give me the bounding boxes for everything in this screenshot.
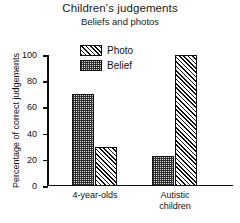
y-tick-label-40: 40 [27,129,37,138]
y-axis-line [47,55,49,186]
y-tick-20: 20 [43,160,48,162]
y-axis-label: Percentage of correct judgements [10,55,22,186]
x-category-label-2-line-2: children [130,201,220,212]
chart-subtitle: Beliefs and photos [0,16,240,27]
y-tick-label-100: 100 [22,51,37,60]
chart-container: Children's judgements Beliefs and photos… [0,0,240,223]
x-category-label-1-line-1: 4-year-olds [50,190,140,201]
y-tick-label-20: 20 [27,155,37,164]
y-tick-60: 60 [43,107,48,109]
y-tick-label-60: 60 [27,103,37,112]
y-tick-40: 40 [43,134,48,136]
bar-4-year-olds-belief [72,94,94,186]
bar-autistic-children-photo [175,55,197,186]
chart-title: Children's judgements [0,2,240,14]
x-category-label-2-line-1: Autistic [130,190,220,201]
bar-autistic-children-belief [152,156,174,186]
bar-4-year-olds-photo [95,147,117,186]
y-tick-label-0: 0 [32,182,37,191]
x-category-label-1: 4-year-olds [50,190,140,201]
y-tick-label-80: 80 [27,77,37,86]
y-tick-0: 0 [43,186,48,188]
x-category-label-2: Autistic children [130,190,220,212]
plot-area: 0 20 40 60 80 100 [47,55,233,186]
y-tick-100: 100 [43,55,48,57]
y-tick-80: 80 [43,81,48,83]
